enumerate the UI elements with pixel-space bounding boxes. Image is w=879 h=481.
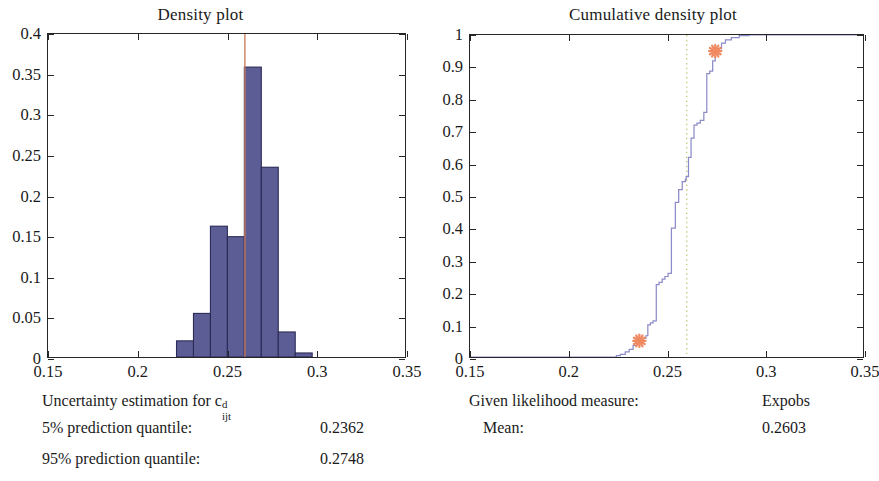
x-tick-label: 0.25: [653, 362, 682, 382]
histogram-bar: [210, 226, 227, 357]
y-tick: [399, 156, 405, 157]
y-tick: [470, 359, 476, 360]
y-tick-label: 0.8: [442, 90, 463, 110]
y-tick-label: 0.6: [442, 155, 463, 175]
y-tick: [470, 197, 476, 198]
x-tick-label: 0.15: [456, 362, 485, 382]
x-tick-label: 0.35: [393, 362, 422, 382]
x-tick: [48, 351, 49, 357]
y-tick: [48, 156, 54, 157]
histogram-bar: [278, 332, 295, 357]
y-tick: [470, 294, 476, 295]
y-tick-label: 0.4: [442, 219, 463, 239]
density-plot-panel: Density plot 00.050.10.150.20.250.30.350…: [0, 0, 437, 481]
quantile-marker: [709, 45, 721, 57]
density-plot-title: Density plot: [0, 5, 419, 25]
histogram-bar: [177, 341, 194, 357]
y-tick-label: 0.3: [442, 252, 463, 272]
x-tick: [668, 35, 669, 41]
y-tick: [857, 327, 863, 328]
x-tick: [569, 351, 570, 357]
uncertainty-caption-heading-text: Uncertainty estimation for c: [42, 392, 222, 409]
x-tick-label: 0.15: [34, 362, 63, 382]
y-tick: [399, 318, 405, 319]
x-tick-label: 0.3: [307, 362, 328, 382]
quantile-5-label: 5% prediction quantile:: [42, 419, 192, 437]
y-tick-label: 0.25: [12, 146, 41, 166]
y-tick: [470, 67, 476, 68]
y-tick-label: 0.1: [442, 317, 463, 337]
density-plot-area: [48, 34, 405, 357]
y-tick-label: 0.9: [442, 57, 463, 77]
y-tick-label: 1: [455, 25, 463, 45]
y-tick: [857, 100, 863, 101]
x-tick: [317, 351, 318, 357]
y-tick: [857, 197, 863, 198]
quantile-95-value: 0.2748: [320, 450, 364, 468]
y-tick-label: 0.5: [442, 187, 463, 207]
x-tick: [865, 35, 866, 41]
likelihood-measure-value: Expobs: [762, 392, 810, 410]
y-tick: [48, 197, 54, 198]
y-tick: [399, 34, 405, 35]
x-tick: [766, 35, 767, 41]
y-tick: [470, 132, 476, 133]
x-tick-label: 0.25: [213, 362, 242, 382]
likelihood-measure-label: Given likelihood measure:: [469, 392, 639, 410]
x-tick: [569, 35, 570, 41]
y-tick: [470, 229, 476, 230]
histogram-bar: [193, 313, 210, 357]
y-tick: [399, 237, 405, 238]
y-tick: [399, 115, 405, 116]
cumulative-density-plot-panel: Cumulative density plot 00.10.20.30.40.5…: [437, 0, 877, 481]
x-tick-label: 0.3: [756, 362, 777, 382]
y-tick: [48, 278, 54, 279]
y-tick: [399, 197, 405, 198]
mean-label: Mean:: [483, 419, 524, 437]
y-tick: [48, 75, 54, 76]
y-tick: [857, 67, 863, 68]
quantile-95-label: 95% prediction quantile:: [42, 450, 200, 468]
y-tick: [857, 35, 863, 36]
x-tick: [138, 34, 139, 40]
y-tick-label: 0.2: [442, 284, 463, 304]
histogram-bar: [261, 167, 278, 357]
y-tick-label: 0.35: [12, 65, 41, 85]
y-tick-label: 0.3: [20, 105, 41, 125]
y-tick-label: 0.2: [20, 187, 41, 207]
histogram-bar: [227, 237, 244, 357]
y-tick: [48, 115, 54, 116]
histogram-bar: [244, 67, 261, 357]
y-tick: [399, 359, 405, 360]
y-tick: [470, 327, 476, 328]
variable-superscript: d: [222, 399, 227, 410]
y-tick-label: 0.7: [442, 122, 463, 142]
x-tick: [228, 34, 229, 40]
y-tick: [857, 359, 863, 360]
y-tick-label: 0.1: [20, 268, 41, 288]
y-tick: [48, 359, 54, 360]
mean-value: 0.2603: [762, 419, 806, 437]
x-tick: [317, 34, 318, 40]
x-tick: [228, 351, 229, 357]
y-tick: [857, 229, 863, 230]
y-tick-label: 0.4: [20, 24, 41, 44]
cumulative-density-plot-title: Cumulative density plot: [433, 5, 873, 25]
x-tick: [470, 35, 471, 41]
cumulative-density-plot-axes: 00.10.20.30.40.50.60.70.80.91 0.150.20.2…: [469, 34, 864, 358]
y-tick: [48, 237, 54, 238]
cumulative-step-svg: [470, 35, 863, 357]
y-tick: [857, 165, 863, 166]
x-tick: [668, 351, 669, 357]
x-tick: [407, 34, 408, 40]
y-tick: [399, 278, 405, 279]
y-tick: [857, 262, 863, 263]
y-tick: [470, 100, 476, 101]
x-tick-label: 0.2: [558, 362, 579, 382]
x-tick: [470, 351, 471, 357]
x-tick: [407, 351, 408, 357]
y-tick-label: 0.15: [12, 227, 41, 247]
y-tick: [399, 75, 405, 76]
x-tick-label: 0.2: [127, 362, 148, 382]
x-tick: [48, 34, 49, 40]
